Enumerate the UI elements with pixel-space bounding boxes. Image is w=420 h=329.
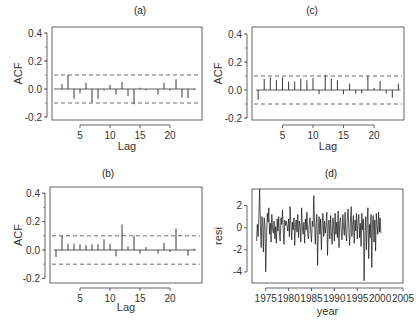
x-tick-label: 15 (338, 130, 350, 141)
x-tick-label: 20 (368, 130, 380, 141)
panel-title: (b) (102, 168, 114, 179)
x-tick-label: 1995 (346, 293, 369, 304)
plot-frame (52, 27, 202, 120)
y-tick-label: 0.4 (28, 28, 42, 39)
x-tick-label: 15 (134, 293, 146, 304)
residual-timeseries-panel-d: (d)-4-2021975198019851990199520002005yea… (212, 168, 415, 317)
plot-frame (50, 187, 202, 283)
plot-frame (252, 27, 404, 120)
x-tick-label: 5 (280, 130, 286, 141)
x-tick-label: 1985 (300, 293, 323, 304)
y-tick-label: 0.0 (28, 84, 42, 95)
y-axis-label: ACF (12, 224, 24, 246)
x-tick-label: 20 (164, 130, 176, 141)
x-tick-label: 1990 (323, 293, 346, 304)
y-tick-label: 0.2 (228, 57, 242, 68)
y-tick-label: 0.0 (228, 85, 242, 96)
acf-panel-b: (b)-0.20.00.20.45101520LagACF (12, 168, 202, 313)
y-axis-label: ACF (12, 62, 24, 84)
y-tick-label: 0.0 (26, 245, 40, 256)
x-tick-label: 20 (164, 293, 176, 304)
y-tick-label: 0.2 (26, 216, 40, 227)
x-tick-label: 2000 (369, 293, 392, 304)
y-tick-label: -2 (233, 244, 242, 255)
x-tick-label: 1980 (277, 293, 300, 304)
x-tick-label: 5 (77, 130, 83, 141)
y-axis-label: ACF (212, 62, 224, 84)
panel-title: (a) (134, 5, 146, 16)
y-tick-label: -0.2 (225, 113, 243, 124)
x-axis-label: Lag (117, 301, 135, 313)
panel-title: (c) (306, 5, 318, 16)
x-axis-label: Lag (319, 140, 337, 152)
y-axis-label: resi (212, 227, 224, 245)
y-tick-label: -4 (233, 266, 242, 277)
panel-title: (d) (325, 168, 337, 179)
y-tick-label: 0.2 (28, 56, 42, 67)
y-tick-label: -0.2 (23, 273, 41, 284)
x-tick-label: 10 (307, 130, 319, 141)
x-tick-label: 10 (104, 293, 116, 304)
y-tick-label: 0 (236, 222, 242, 233)
x-axis-label: year (317, 305, 339, 317)
figure: (a)-0.20.00.20.45101520LagACF (c)-0.20.0… (0, 0, 420, 329)
x-tick-label: 5 (77, 293, 83, 304)
y-tick-label: -0.2 (25, 112, 43, 123)
residual-series-line (257, 189, 381, 281)
x-tick-label: 10 (104, 130, 116, 141)
y-tick-label: 2 (236, 200, 242, 211)
acf-panel-a: (a)-0.20.00.20.45101520LagACF (12, 5, 202, 152)
acf-panel-c: (c)-0.20.00.20.45101520LagACF (212, 5, 404, 152)
x-tick-label: 1975 (255, 293, 278, 304)
x-tick-label: 2005 (392, 293, 415, 304)
x-axis-label: Lag (118, 140, 136, 152)
y-tick-label: 0.4 (26, 188, 40, 199)
y-tick-label: 0.4 (228, 29, 242, 40)
